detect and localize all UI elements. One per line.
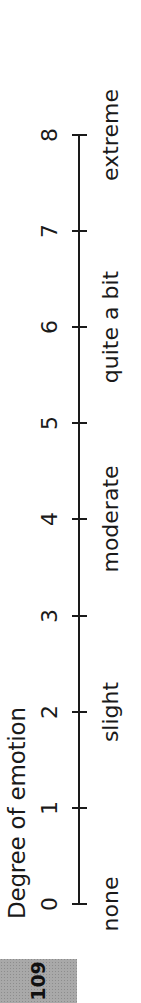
- descriptor-extreme: extreme: [98, 89, 124, 181]
- descriptor-slight: slight: [98, 682, 124, 742]
- tick-mark-0: [72, 903, 87, 905]
- tick-label-2: 2: [38, 697, 62, 727]
- tick-mark-6: [72, 326, 87, 328]
- tick-label-7: 7: [38, 216, 62, 246]
- tick-label-6: 6: [38, 312, 62, 342]
- tick-mark-2: [72, 711, 87, 713]
- tick-label-3: 3: [38, 601, 62, 631]
- tick-label-0: 0: [38, 889, 62, 919]
- tick-label-4: 4: [38, 504, 62, 534]
- scale-title: Degree of emotion: [4, 707, 30, 919]
- tick-mark-5: [72, 422, 87, 424]
- tick-label-1: 1: [38, 793, 62, 823]
- descriptor-moderate: moderate: [98, 465, 124, 572]
- tick-mark-1: [72, 807, 87, 809]
- page-number-box: 109: [0, 959, 77, 1003]
- tick-mark-7: [72, 230, 87, 232]
- descriptor-quite-a-bit: quite a bit: [98, 271, 124, 383]
- tick-mark-8: [72, 134, 87, 136]
- emotion-rating-scale: Degree of emotion 0 1 2 3 4 5 6 7 8 none…: [0, 0, 141, 1003]
- page-number: 109: [16, 959, 60, 1003]
- tick-mark-4: [72, 518, 87, 520]
- tick-label-5: 5: [38, 408, 62, 438]
- tick-label-8: 8: [38, 120, 62, 150]
- tick-mark-3: [72, 615, 87, 617]
- descriptor-none: none: [98, 877, 124, 932]
